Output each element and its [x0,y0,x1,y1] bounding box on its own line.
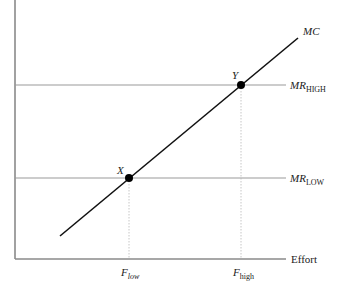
point-x-dot [125,174,133,182]
f-high-label: Fhigh [232,266,254,281]
mc-label: MC [302,25,320,37]
mr-low-label: MRLOW [289,172,325,187]
point-x-label: X [116,164,125,176]
mc-line [60,38,298,236]
x-axis-label: Effort [291,253,317,265]
point-y-label: Y [232,69,240,81]
effort-diagram: MC MRHIGH MRLOW X Y Flow Fhigh Effort [0,0,350,290]
f-low-label: Flow [120,266,140,281]
mr-high-label: MRHIGH [289,79,326,94]
point-y-dot [237,81,245,89]
